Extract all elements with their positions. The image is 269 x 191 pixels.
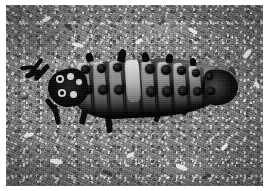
tubercle: [98, 85, 108, 95]
ladybird-larva: [42, 45, 228, 137]
tubercle: [192, 69, 200, 77]
tubercle: [114, 85, 124, 95]
head-pale-spot: [76, 79, 82, 85]
dorsal-spine: [189, 58, 196, 67]
tubercle: [145, 64, 155, 74]
photo-frame: ladybird beetle larva macro photograph o…: [0, 0, 269, 191]
tubercle: [178, 86, 188, 96]
photograph: [6, 5, 263, 186]
head-eyespot: [60, 91, 64, 95]
tubercle: [177, 66, 186, 75]
dorsal-spine: [141, 52, 149, 63]
tubercle: [113, 63, 122, 72]
tubercle: [193, 87, 202, 96]
pale-dorsal-saddle: [125, 60, 142, 103]
head-pale-spot: [67, 73, 74, 80]
tubercle: [97, 64, 106, 73]
tubercle: [161, 65, 171, 75]
head-eyespot: [58, 77, 62, 81]
dorsal-spine: [166, 54, 174, 64]
tubercle: [206, 73, 213, 80]
dorsal-spine: [85, 52, 94, 63]
head-pale-spot: [70, 91, 77, 98]
tubercle: [162, 86, 173, 97]
tubercle: [207, 87, 215, 95]
tubercle: [146, 86, 157, 97]
